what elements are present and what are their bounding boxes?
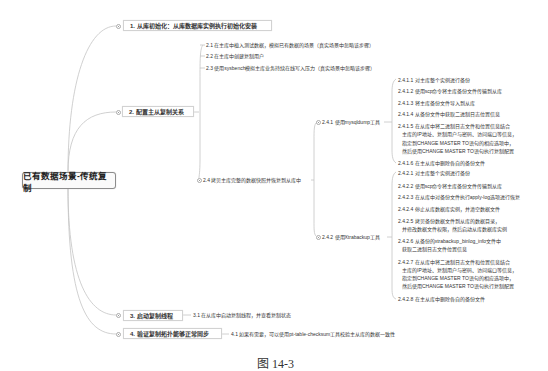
subtopic-3-1[interactable]: 3.1 在从库中启动复制线程，并查看复制状态 [193,312,291,319]
figure-caption: 图 14-3 [257,354,294,371]
branch-node-3[interactable]: 3. 启动复制线程 [123,310,183,321]
step-line: 2.4.1.2 使用scp命令将主库备份文件传输到从库 [398,88,502,94]
collapse-toggle-icon[interactable] [116,24,121,29]
step-2-4-1-5[interactable]: 2.4.1.5 在从库中将二进制日志文件和位置信息结合 主库的IP地址、复制用户… [398,122,517,156]
branch-node-label: 4. 验证复制拓扑能够正常同步 [130,329,209,338]
step-2-4-1-3[interactable]: 2.4.1.3 将主库备份文件导入到从库 [398,99,475,107]
branch-node-label: 1. 从库初始化：从库数据库实例执行初始化安装 [130,21,257,30]
step-2-4-2-8[interactable]: 2.4.2.8 在主从库中删除各自的备份文件 [398,295,485,303]
step-line: 2.4.1.3 将主库备份文件导入到从库 [398,100,475,106]
subtopic-2-1[interactable]: 2.1 在主库中植入测试数据，模拟已有数据的场景（真实场景中忽略该步骤） [206,42,374,49]
subtopic-2-4-1[interactable]: 2.4.1 使用mysqldump工具 [322,119,380,126]
step-2-4-2-4[interactable]: 2.4.2.4 停止从库数据库实例，并清空数据文件 [398,205,500,213]
step-line: 2.4.1.5 在从库中将二进制日志文件和位置信息结合 [398,122,517,130]
step-line: 2.4.2.5 拷贝备份数据文件到从库的数据目录， [398,218,507,226]
step-2-4-2-6[interactable]: 2.4.2.6 从备份的xtrabackup_binlog_info文件中 获取… [398,238,501,253]
step-2-4-1-4[interactable]: 2.4.1.4 从备份文件中获取二进制日志位置信息 [398,110,500,118]
step-line: 2.4.2.1 对主库整个实例进行备份 [398,170,470,176]
subtopic-2-4[interactable]: 2.4 拷贝主库完整的数据快照并恢复到从库中 [203,177,301,184]
step-line: 指定到CHANGE MASTER TO语句的相应选项中， [398,274,517,282]
collapse-toggle-icon[interactable] [116,332,121,337]
root-node[interactable]: 已有数据场景-传统复制 [22,172,116,189]
step-2-4-1-6[interactable]: 2.4.1.6 在主从库中删除各自的备份文件 [398,159,485,167]
collapse-toggle-icon[interactable] [316,235,321,240]
branch-node-2[interactable]: 2. 配置主从复制关系 [122,106,194,117]
step-line: 2.4.2.2 使用scp命令将主库备份文件传输到从库 [398,183,502,189]
step-line: 2.4.2.7 在从库中将二进制日志文件和位置信息结合 [398,258,517,266]
subtopic-2-4-2[interactable]: 2.4.2 使用Xtrabackup工具 [322,234,380,241]
step-line: 然后使用CHANGE MASTER TO语句执行复制配置 [398,282,517,290]
step-2-4-1-1[interactable]: 2.4.1.1 对主库整个实例进行备份 [398,76,470,84]
branch-node-1[interactable]: 1. 从库初始化：从库数据库实例执行初始化安装 [123,20,272,31]
step-line: 指定到CHANGE MASTER TO语句的相应选项中， [398,139,517,147]
collapse-toggle-icon[interactable] [197,178,202,183]
step-2-4-2-1[interactable]: 2.4.2.1 对主库整个实例进行备份 [398,169,470,177]
collapse-toggle-icon[interactable] [116,313,121,318]
branch-node-4[interactable]: 4. 验证复制拓扑能够正常同步 [123,328,222,339]
step-line: 2.4.2.4 停止从库数据库实例，并清空数据文件 [398,206,500,212]
step-line: 2.4.1.6 在主从库中删除各自的备份文件 [398,160,485,166]
root-node-label: 已有数据场景-传统复制 [23,169,115,193]
step-2-4-2-7[interactable]: 2.4.2.7 在从库中将二进制日志文件和位置信息结合 主库的IP地址、复制用户… [398,258,517,290]
step-line: 主库的IP地址、复制用户与密码、访问端口等信息， [398,130,517,138]
branch-node-label: 2. 配置主从复制关系 [129,107,184,116]
step-line: 主库的IP地址、复制用户与密码、访问端口等信息， [398,266,517,274]
step-line: 获取二进制日志文件位置信息 [398,246,501,254]
step-line: 2.4.2.8 在主从库中删除各自的备份文件 [398,296,485,302]
step-line: 并修改数据文件权限，然后启动从库数据库实例 [398,226,507,234]
step-line: 然后使用CHANGE MASTER TO语句执行复制配置 [398,147,517,155]
collapse-toggle-icon[interactable] [116,110,121,115]
branch-node-label: 3. 启动复制线程 [130,311,173,320]
collapse-toggle-icon[interactable] [316,120,321,125]
step-line: 2.4.2.3 在从库中对备份文件执行apply-log选项进行恢复 [398,194,520,200]
step-line: 2.4.2.6 从备份的xtrabackup_binlog_info文件中 [398,238,501,246]
step-line: 2.4.1.1 对主库整个实例进行备份 [398,77,470,83]
subtopic-2-2[interactable]: 2.2 在主库中创建复制用户 [206,53,264,60]
subtopic-2-3[interactable]: 2.3 使用sysbench模拟主库业务持续在线写入压力（真实场景中忽略该步骤） [206,65,375,72]
step-line: 2.4.1.4 从备份文件中获取二进制日志位置信息 [398,111,500,117]
subtopic-4-1[interactable]: 4.1 如果有需要，可以使用pt-table-checksum工具校验主从库的数… [231,331,395,338]
step-2-4-2-2[interactable]: 2.4.2.2 使用scp命令将主库备份文件传输到从库 [398,182,502,190]
step-2-4-1-2[interactable]: 2.4.1.2 使用scp命令将主库备份文件传输到从库 [398,87,502,95]
step-2-4-2-3[interactable]: 2.4.2.3 在从库中对备份文件执行apply-log选项进行恢复 [398,193,520,201]
step-2-4-2-5[interactable]: 2.4.2.5 拷贝备份数据文件到从库的数据目录， 并修改数据文件权限，然后启动… [398,218,507,233]
